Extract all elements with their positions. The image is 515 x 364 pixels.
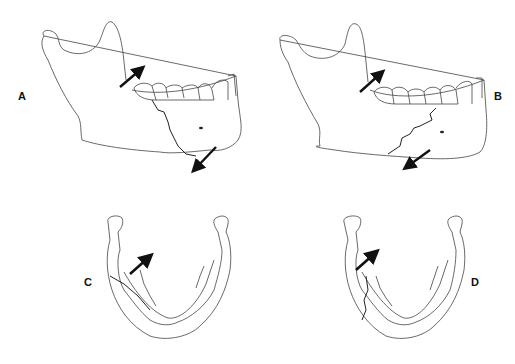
panel-c-mandible-occlusal <box>107 216 231 338</box>
panel-b-mandible <box>280 24 487 159</box>
figure-caption-truncated <box>30 356 490 364</box>
panel-d-mandible-occlusal <box>344 216 465 338</box>
arrow-up-icon <box>130 258 148 274</box>
panel-label-c: C <box>84 276 92 288</box>
arrow-up-icon <box>120 70 140 87</box>
panel-label-a: A <box>18 90 26 102</box>
panel-label-d: D <box>471 276 479 288</box>
panel-a-mandible <box>42 22 241 156</box>
mandible-fracture-figure: A B C D <box>0 0 515 364</box>
panel-label-b: B <box>494 90 502 102</box>
arrow-up-icon <box>356 254 374 270</box>
figure-drawing <box>0 0 515 364</box>
